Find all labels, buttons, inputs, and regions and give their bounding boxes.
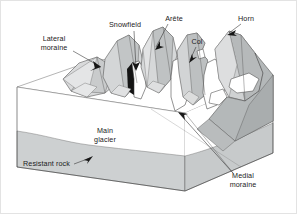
label-lateral-moraine-line1: Lateral	[43, 34, 66, 43]
label-snowfield: Snowfield	[109, 20, 141, 29]
label-lateral-moraine-line2: moraine	[41, 43, 68, 52]
label-medial-moraine-line2: moraine	[230, 180, 257, 189]
glacial-landforms-figure: Lateral moraine Snowfield Arête Col Horn…	[0, 0, 297, 214]
label-main-glacier-line1: Main	[97, 126, 113, 135]
label-horn: Horn	[238, 14, 254, 23]
block-diagram-svg: Lateral moraine Snowfield Arête Col Horn…	[1, 1, 297, 214]
label-medial-moraine-line1: Medial	[232, 171, 254, 180]
label-resistant-rock: Resistant rock	[23, 159, 70, 168]
label-arete: Arête	[165, 14, 183, 23]
label-col: Col	[191, 37, 202, 46]
label-main-glacier-line2: glacier	[94, 135, 116, 144]
